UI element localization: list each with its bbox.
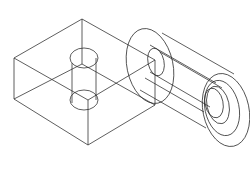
through-hole bbox=[70, 48, 98, 110]
flanged-sleeve-part bbox=[120, 24, 250, 151]
block-part bbox=[14, 19, 155, 145]
wireframe-drawing bbox=[0, 0, 250, 171]
